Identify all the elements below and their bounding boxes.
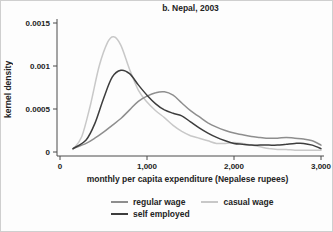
y-tick-label: 0.0005: [26, 105, 51, 114]
y-tick-label: 0.001: [30, 62, 51, 71]
legend-row-1: regular wage casual wage: [111, 197, 274, 207]
x-tick-label: 1,000: [137, 162, 158, 171]
figure-kernel-density-nepal: b. Nepal, 2003 kernel density 00.00050.0…: [0, 0, 333, 232]
legend-label-self-employed: self employed: [133, 209, 190, 219]
x-tick-label: 2,000: [224, 162, 245, 171]
legend-label-regular-wage: regular wage: [133, 197, 185, 207]
y-tick-label: 0: [46, 148, 51, 157]
self-employed-line-swatch: [111, 213, 128, 215]
x-axis-label: monthly per capita expenditure (Nepalese…: [51, 174, 324, 184]
curve-regular-wage: [73, 92, 321, 149]
x-tick-label: 3,000: [311, 162, 332, 171]
curve-casual-wage: [73, 37, 321, 151]
legend-label-casual-wage: casual wage: [223, 197, 273, 207]
legend-item-self-employed: self employed: [111, 209, 190, 219]
y-tick-label: 0.0015: [26, 19, 51, 28]
casual-wage-line-swatch: [201, 201, 218, 203]
regular-wage-line-swatch: [111, 201, 128, 203]
x-tick-label: 0: [58, 162, 63, 171]
legend: regular wage casual wage self employed: [111, 197, 274, 219]
legend-row-2: self employed: [111, 209, 274, 219]
legend-item-casual-wage: casual wage: [201, 197, 273, 207]
legend-item-regular-wage: regular wage: [111, 197, 185, 207]
